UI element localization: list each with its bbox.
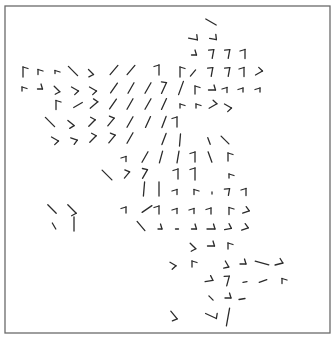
wind-barb-icon xyxy=(55,71,60,74)
wind-barb-icon xyxy=(137,221,145,230)
wind-barb-icon xyxy=(109,133,115,143)
wind-barb-icon xyxy=(127,99,133,109)
wind-barb-icon xyxy=(229,208,234,215)
wind-barb-icon xyxy=(206,19,216,25)
wind-barb-icon xyxy=(128,83,134,93)
wind-barb-icon xyxy=(90,133,96,142)
wind-barbs-layer xyxy=(22,19,287,326)
wind-barb-icon xyxy=(192,224,197,229)
wind-barb-icon xyxy=(71,138,78,145)
wind-barb-icon xyxy=(171,311,177,321)
wind-barb-icon xyxy=(209,296,213,300)
wind-barb-icon xyxy=(240,50,245,59)
wind-barb-icon xyxy=(38,84,43,89)
wind-barb-icon xyxy=(161,82,166,94)
wind-barb-icon xyxy=(256,67,263,75)
wind-barb-icon xyxy=(241,189,246,196)
wind-barb-icon xyxy=(142,169,147,179)
wind-barb-icon xyxy=(205,276,213,282)
wind-barb-icon xyxy=(208,68,213,77)
wind-barb-icon xyxy=(145,83,151,93)
wind-barb-icon xyxy=(221,136,229,144)
wind-barb-icon xyxy=(208,241,215,246)
wind-barb-plot xyxy=(0,0,332,340)
wind-barb-icon xyxy=(242,224,249,231)
wind-barb-icon xyxy=(207,224,215,229)
wind-barb-icon xyxy=(68,205,76,216)
wind-barb-icon xyxy=(38,70,43,75)
wind-barb-icon xyxy=(255,261,269,265)
wind-barb-icon xyxy=(243,282,247,283)
wind-barb-icon xyxy=(259,280,267,283)
wind-barb-icon xyxy=(224,261,229,268)
wind-barb-icon xyxy=(192,50,197,55)
wind-barb-icon xyxy=(209,100,217,108)
wind-barb-icon xyxy=(89,70,94,77)
wind-barb-icon xyxy=(154,65,159,75)
wind-barb-icon xyxy=(124,170,129,178)
wind-barb-icon xyxy=(127,117,133,127)
wind-barb-icon xyxy=(159,151,162,163)
wind-barb-icon xyxy=(110,99,117,109)
wind-barb-icon xyxy=(225,50,230,59)
wind-barb-icon xyxy=(121,207,126,213)
wind-barb-icon xyxy=(275,259,283,266)
wind-barb-icon xyxy=(162,116,166,127)
wind-barb-icon xyxy=(243,207,250,214)
wind-barb-icon xyxy=(102,170,112,180)
wind-barb-icon xyxy=(209,85,216,90)
wind-barb-icon xyxy=(22,87,27,91)
wind-barb-icon xyxy=(208,152,212,162)
wind-barb-icon xyxy=(111,83,118,93)
wind-barb-icon xyxy=(170,262,176,269)
wind-barb-icon xyxy=(180,104,185,108)
wind-barb-icon xyxy=(127,133,133,143)
wind-barb-icon xyxy=(23,67,28,77)
wind-barb-icon xyxy=(54,86,60,94)
wind-barb-icon xyxy=(89,117,95,126)
wind-barb-icon xyxy=(225,68,230,77)
wind-barb-icon xyxy=(190,168,195,180)
wind-barb-icon xyxy=(194,190,199,195)
wind-barb-icon xyxy=(229,174,234,178)
wind-barb-icon xyxy=(177,151,179,163)
wind-barb-icon xyxy=(154,206,159,214)
wind-barb-icon xyxy=(52,137,59,145)
wind-barb-icon xyxy=(68,120,74,128)
wind-barb-icon xyxy=(239,299,245,300)
wind-barb-icon xyxy=(228,243,233,249)
wind-barb-icon xyxy=(196,104,201,108)
wind-barb-icon xyxy=(209,50,214,59)
wind-barb-icon xyxy=(238,88,243,92)
wind-barb-icon xyxy=(180,134,181,146)
wind-barb-icon xyxy=(225,224,232,230)
wind-barb-icon xyxy=(192,261,197,267)
wind-barb-icon xyxy=(145,99,151,109)
wind-barb-icon xyxy=(222,88,227,93)
wind-barb-icon xyxy=(224,276,229,286)
wind-barb-icon xyxy=(282,279,287,284)
wind-barb-icon xyxy=(90,87,97,95)
wind-barb-icon xyxy=(226,308,229,326)
wind-barb-icon xyxy=(162,133,166,144)
wind-barb-icon xyxy=(206,208,211,214)
wind-barb-icon xyxy=(195,86,200,94)
wind-barb-icon xyxy=(208,138,210,145)
wind-barb-icon xyxy=(143,182,144,196)
wind-barb-icon xyxy=(110,65,118,74)
wind-barb-icon xyxy=(162,99,167,110)
wind-barb-icon xyxy=(179,81,184,94)
wind-barb-icon xyxy=(255,88,260,92)
plot-frame xyxy=(5,6,330,333)
wind-barb-icon xyxy=(108,116,114,126)
wind-barb-icon xyxy=(225,293,231,298)
wind-barb-icon xyxy=(48,205,56,213)
wind-barb-icon xyxy=(142,152,148,162)
wind-barb-icon xyxy=(180,67,185,77)
wind-barb-icon xyxy=(45,117,54,126)
wind-barb-icon xyxy=(239,68,244,77)
wind-barb-icon xyxy=(189,209,194,214)
wind-barb-icon xyxy=(240,259,246,264)
wind-barb-icon xyxy=(158,224,162,229)
wind-barb-icon xyxy=(190,243,196,251)
